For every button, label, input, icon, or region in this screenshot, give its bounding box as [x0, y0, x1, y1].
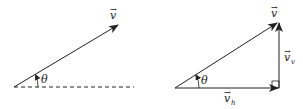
left-figure: θ v →: [14, 5, 134, 87]
diagram-canvas: θ v → θ v → v v → v h →: [0, 0, 303, 109]
horizontal-component-subscript: h: [231, 99, 236, 107]
angle-label: θ: [41, 73, 48, 86]
vector-arrow-accent-icon: →: [284, 47, 291, 56]
vector-decomposition-diagram: θ v → θ v → v v → v h →: [0, 0, 303, 109]
right-angle-marker: [272, 81, 279, 88]
angle-arc: [36, 75, 39, 87]
vector-arrow-accent-icon: →: [224, 88, 231, 97]
vector-v-arrow: [14, 25, 118, 87]
vertical-component-subscript: v: [291, 58, 295, 66]
angle-arc: [196, 75, 199, 88]
angle-label: θ: [201, 74, 208, 87]
vector-arrow-accent-icon: →: [110, 5, 117, 14]
vector-v-arrow: [175, 23, 277, 88]
right-figure: θ v → v v → v h →: [175, 3, 295, 107]
vector-arrow-accent-icon: →: [271, 3, 278, 12]
